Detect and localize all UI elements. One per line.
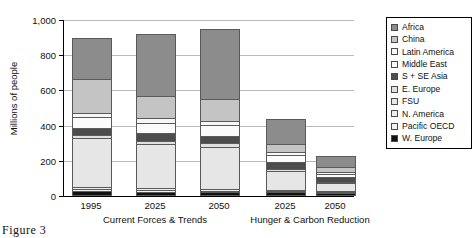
- legend-item: FSU: [391, 95, 468, 107]
- legend-label: Pacific OECD: [402, 122, 455, 131]
- bar-segment: [267, 145, 305, 153]
- bar-segment: [137, 134, 175, 141]
- legend-label: S + SE Asia: [402, 72, 448, 81]
- legend-swatch: [391, 86, 398, 93]
- bar-segment: [267, 120, 305, 146]
- bar-segment: [73, 39, 111, 80]
- stacked-bar: [136, 34, 176, 196]
- bar-segment: [73, 192, 111, 195]
- bar-segment: [201, 137, 239, 145]
- bar-segment: [267, 172, 305, 191]
- bar-segment: [201, 148, 239, 191]
- stacked-bar: [200, 29, 240, 196]
- legend-swatch: [391, 61, 398, 68]
- legend-label: Latin America: [402, 48, 454, 57]
- x-axis-tick-label: 2025: [274, 200, 295, 211]
- bar-segment: [73, 80, 111, 115]
- bar-segment: [137, 124, 175, 135]
- y-axis-tick-label: 400: [40, 120, 56, 131]
- legend-label: Middle East: [402, 60, 447, 69]
- legend-item: N. America: [391, 108, 468, 120]
- stacked-bar: [316, 156, 356, 196]
- plot-area: 02004006008001,000: [63, 20, 354, 197]
- legend-item: Middle East: [391, 58, 468, 70]
- bar-segment: [137, 35, 175, 97]
- legend-item: China: [391, 33, 468, 45]
- x-axis-tick-label: 2050: [324, 200, 345, 211]
- legend-swatch: [391, 110, 398, 117]
- bar-segment: [267, 193, 305, 195]
- legend-item: Africa: [391, 21, 468, 33]
- legend-swatch: [391, 24, 398, 31]
- bar-segment: [317, 157, 355, 168]
- legend-item: E. Europe: [391, 83, 468, 95]
- y-axis-title: Millions of people: [8, 39, 19, 159]
- bar-segment: [201, 193, 239, 195]
- legend-swatch: [391, 36, 398, 43]
- x-axis-group-label: Current Forces & Trends: [103, 214, 207, 225]
- stacked-bar: [266, 119, 306, 196]
- legend-label: W. Europe: [402, 134, 442, 143]
- x-axis-tick-label: 2050: [208, 200, 229, 211]
- bar-segment: [73, 129, 111, 136]
- legend-label: China: [402, 35, 424, 44]
- y-axis-tick: [59, 20, 64, 21]
- bar-segment: [137, 193, 175, 195]
- legend-item: Latin America: [391, 46, 468, 58]
- legend-item: Pacific OECD: [391, 120, 468, 132]
- bar-segment: [317, 194, 355, 195]
- legend-label: N. America: [402, 110, 444, 119]
- legend-swatch: [391, 73, 398, 80]
- legend-swatch: [391, 123, 398, 130]
- y-axis-tick-label: 800: [40, 50, 56, 61]
- y-axis-tick-label: 200: [40, 155, 56, 166]
- chart-legend: AfricaChinaLatin AmericaMiddle EastS + S…: [386, 17, 472, 149]
- y-axis-tick: [59, 126, 64, 127]
- y-axis-tick-label: 600: [40, 85, 56, 96]
- y-axis-tick: [59, 161, 64, 162]
- legend-label: Africa: [402, 23, 424, 32]
- legend-swatch: [391, 135, 398, 142]
- legend-item: W. Europe: [391, 133, 468, 145]
- x-axis-tick-label: 1995: [80, 200, 101, 211]
- legend-label: FSU: [402, 97, 419, 106]
- bar-segment: [73, 139, 111, 188]
- figure-caption: Figure 3: [2, 223, 46, 238]
- bar-segment: [201, 126, 239, 137]
- bar-segment: [267, 156, 305, 163]
- chart-figure: Millions of people 02004006008001,000 Af…: [0, 0, 474, 238]
- y-axis-tick-label: 1,000: [32, 15, 56, 26]
- y-axis-tick: [59, 196, 64, 197]
- bar-segment: [137, 97, 175, 120]
- gridline: [64, 20, 354, 21]
- legend-swatch: [391, 48, 398, 55]
- legend-label: E. Europe: [402, 85, 440, 94]
- x-axis-group-label: Hunger & Carbon Reduction: [250, 214, 369, 225]
- x-axis-tick-label: 2025: [144, 200, 165, 211]
- bar-segment: [137, 145, 175, 189]
- stacked-bar: [72, 38, 112, 196]
- y-axis-tick-label: 0: [51, 191, 56, 202]
- legend-item: S + SE Asia: [391, 71, 468, 83]
- y-axis-tick: [59, 90, 64, 91]
- bar-segment: [73, 118, 111, 128]
- bar-segment: [317, 184, 355, 191]
- bar-segment: [201, 100, 239, 121]
- bar-segment: [201, 30, 239, 101]
- y-axis-tick: [59, 55, 64, 56]
- legend-swatch: [391, 98, 398, 105]
